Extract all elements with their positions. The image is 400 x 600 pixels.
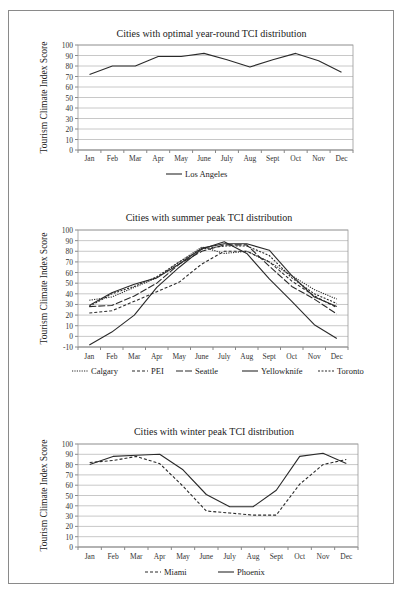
chart-optimal-year-round: Cities with optimal year-round TCI distr… bbox=[0, 14, 400, 184]
x-tick-label: Nov bbox=[317, 552, 330, 561]
y-tick-label: 50 bbox=[66, 492, 74, 501]
x-tick-label: Dec bbox=[331, 352, 344, 361]
x-tick-label: Aug bbox=[243, 154, 256, 163]
chart-svg: Cities with winter peak TCI distribution… bbox=[0, 420, 400, 585]
x-tick-label: Feb bbox=[107, 154, 119, 163]
y-tick-label: 30 bbox=[66, 512, 74, 521]
x-tick-label: June bbox=[195, 352, 209, 361]
y-tick-label: 70 bbox=[66, 258, 74, 267]
legend-label: Yellowknife bbox=[261, 366, 303, 376]
chart-title: Cities with winter peak TCI distribution bbox=[134, 426, 294, 437]
legend-label: Phoenix bbox=[237, 567, 266, 577]
y-tick-label: 60 bbox=[66, 269, 74, 278]
y-tick-label: 50 bbox=[66, 94, 74, 103]
x-tick-label: Feb bbox=[107, 552, 119, 561]
y-axis-label: Tourism Climate Index Score bbox=[39, 233, 49, 345]
chart-svg: Cities with optimal year-round TCI distr… bbox=[0, 14, 400, 184]
y-tick-label: 10 bbox=[66, 322, 74, 331]
y-tick-label: 80 bbox=[66, 62, 74, 71]
y-tick-label: 10 bbox=[66, 533, 74, 542]
x-tick-label: May bbox=[174, 154, 188, 163]
y-tick-label: 30 bbox=[66, 300, 74, 309]
x-tick-label: Jan bbox=[84, 352, 94, 361]
y-tick-label: 50 bbox=[66, 279, 74, 288]
y-tick-label: 0 bbox=[69, 146, 73, 155]
y-tick-label: 40 bbox=[66, 502, 74, 511]
chart-svg: Cities with summer peak TCI distribution… bbox=[0, 206, 400, 391]
y-tick-label: 100 bbox=[62, 226, 74, 235]
x-tick-label: Mar bbox=[130, 552, 143, 561]
x-tick-label: May bbox=[176, 552, 190, 561]
x-tick-label: Mar bbox=[129, 154, 142, 163]
y-tick-label: 0 bbox=[69, 543, 73, 552]
chart-title: Cities with summer peak TCI distribution bbox=[126, 212, 293, 223]
series-line-seattle bbox=[89, 245, 336, 314]
y-tick-label: 70 bbox=[66, 471, 74, 480]
y-tick-label: 10 bbox=[66, 136, 74, 145]
legend-label: Calgary bbox=[91, 366, 119, 376]
y-tick-label: -10 bbox=[63, 343, 73, 352]
y-tick-label: 90 bbox=[66, 52, 74, 61]
x-tick-label: June bbox=[199, 552, 213, 561]
legend-label: Los Angeles bbox=[185, 169, 227, 179]
x-tick-label: Nov bbox=[308, 352, 321, 361]
x-tick-label: June bbox=[197, 154, 211, 163]
legend-item: Miami bbox=[145, 567, 187, 577]
x-tick-label: Apr bbox=[151, 352, 163, 361]
x-tick-label: Sept bbox=[263, 352, 277, 361]
x-tick-label: Dec bbox=[340, 552, 353, 561]
x-tick-label: Sept bbox=[270, 552, 284, 561]
y-tick-label: 20 bbox=[66, 522, 74, 531]
chart-winter-peak: Cities with winter peak TCI distribution… bbox=[0, 420, 400, 585]
y-tick-label: 60 bbox=[66, 481, 74, 490]
chart-title: Cities with optimal year-round TCI distr… bbox=[117, 28, 307, 39]
legend-item: Toronto bbox=[318, 366, 364, 376]
y-tick-label: 80 bbox=[66, 461, 74, 470]
y-tick-label: 60 bbox=[66, 83, 74, 92]
x-tick-label: Dec bbox=[336, 154, 349, 163]
x-tick-label: Aug bbox=[240, 352, 253, 361]
x-tick-label: Sept bbox=[266, 154, 280, 163]
x-tick-label: Nov bbox=[312, 154, 325, 163]
x-tick-label: Aug bbox=[247, 552, 260, 561]
y-tick-label: 40 bbox=[66, 104, 74, 113]
x-tick-label: Oct bbox=[290, 154, 302, 163]
x-tick-label: Oct bbox=[294, 552, 306, 561]
y-axis-label: Tourism Climate Index Score bbox=[39, 42, 49, 154]
series-line-calgary bbox=[89, 247, 336, 300]
y-axis-label: Tourism Climate Index Score bbox=[39, 440, 49, 552]
legend-label: Seattle bbox=[195, 366, 218, 376]
series-line-phoenix bbox=[90, 453, 347, 507]
x-tick-label: Apr bbox=[154, 552, 166, 561]
x-tick-label: July bbox=[221, 154, 234, 163]
series-line-pei bbox=[89, 251, 336, 313]
y-tick-label: 100 bbox=[62, 440, 74, 449]
legend-label: PEI bbox=[151, 366, 164, 376]
y-tick-label: 20 bbox=[66, 311, 74, 320]
y-tick-label: 70 bbox=[66, 73, 74, 82]
x-tick-label: Jan bbox=[84, 154, 94, 163]
y-tick-label: 40 bbox=[66, 290, 74, 299]
x-tick-label: Mar bbox=[128, 352, 141, 361]
x-tick-label: Jan bbox=[85, 552, 95, 561]
x-tick-label: Oct bbox=[286, 352, 298, 361]
y-tick-label: 90 bbox=[66, 450, 74, 459]
x-tick-label: Feb bbox=[106, 352, 118, 361]
chart-summer-peak: Cities with summer peak TCI distribution… bbox=[0, 206, 400, 391]
x-tick-label: July bbox=[218, 352, 231, 361]
y-tick-label: 90 bbox=[66, 237, 74, 246]
legend-item: Calgary bbox=[72, 366, 119, 376]
series-line-toronto bbox=[89, 246, 336, 307]
x-tick-label: May bbox=[172, 352, 186, 361]
legend-item: Phoenix bbox=[218, 567, 266, 577]
legend-item: Los Angeles bbox=[166, 169, 227, 179]
y-tick-label: 80 bbox=[66, 247, 74, 256]
y-tick-label: 100 bbox=[62, 41, 74, 50]
x-tick-label: Apr bbox=[152, 154, 164, 163]
legend-item: Seattle bbox=[176, 366, 218, 376]
y-tick-label: 30 bbox=[66, 115, 74, 124]
y-tick-label: 0 bbox=[69, 332, 73, 341]
series-line-los-angeles bbox=[90, 53, 342, 74]
series-line-seattle-solid bbox=[89, 244, 336, 307]
legend-item: Yellowknife bbox=[242, 366, 303, 376]
